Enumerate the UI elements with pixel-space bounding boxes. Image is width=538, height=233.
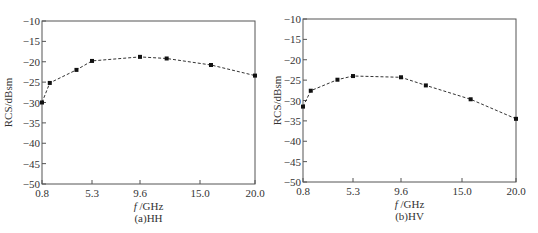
y-tick-label: −35 — [284, 115, 302, 127]
y-tick-label: −25 — [284, 74, 302, 86]
y-tick-label: −40 — [284, 135, 302, 147]
x-tick-label: 0.8 — [296, 185, 310, 197]
chart-caption: (a)HH — [134, 212, 162, 225]
x-axis-label: f /GHz — [395, 198, 425, 210]
data-point-marker — [335, 78, 339, 82]
data-point-marker — [165, 56, 169, 60]
data-point-marker — [514, 117, 518, 121]
plot-frame — [42, 21, 255, 184]
y-tick-label: −40 — [23, 137, 41, 149]
chart-caption: (b)HV — [395, 210, 424, 223]
y-axis-label: RCS/dBsm — [271, 75, 283, 125]
y-tick-label: −10 — [284, 13, 302, 25]
x-tick-label: 5.3 — [346, 185, 360, 197]
y-axis-label: RCS/dBsm — [2, 77, 14, 127]
chart-hv: −10−15−20−25−30−35−40−45−500.85.39.615.0… — [269, 0, 538, 233]
x-axis-label: f /GHz — [134, 200, 164, 212]
chart-hh-svg: −10−15−20−25−30−35−40−45−500.85.39.615.0… — [0, 0, 269, 233]
data-point-marker — [424, 83, 428, 87]
chart-hv-svg: −10−15−20−25−30−35−40−45−500.85.39.615.0… — [269, 0, 538, 233]
x-tick-label: 20.0 — [506, 185, 526, 197]
data-point-marker — [48, 81, 52, 85]
x-tick-label: 0.8 — [35, 187, 49, 199]
data-point-marker — [253, 74, 257, 78]
y-tick-label: −35 — [23, 117, 41, 129]
x-tick-label: 9.6 — [394, 185, 408, 197]
x-tick-label: 9.6 — [133, 187, 147, 199]
y-tick-label: −30 — [284, 95, 302, 107]
plot-frame — [303, 19, 516, 182]
series-line — [42, 57, 255, 103]
x-tick-label: 5.3 — [85, 187, 99, 199]
y-tick-label: −25 — [23, 76, 41, 88]
x-tick-label: 15.0 — [452, 185, 472, 197]
y-tick-label: −10 — [23, 15, 41, 27]
series-line — [303, 76, 516, 119]
y-tick-label: −45 — [23, 158, 41, 170]
data-point-marker — [351, 74, 355, 78]
y-tick-label: −45 — [284, 156, 302, 168]
y-tick-label: −15 — [23, 35, 41, 47]
data-point-marker — [209, 63, 213, 67]
chart-hh: −10−15−20−25−30−35−40−45−500.85.39.615.0… — [0, 0, 269, 233]
data-point-marker — [301, 105, 305, 109]
data-point-marker — [90, 59, 94, 63]
data-point-marker — [309, 89, 313, 93]
data-point-marker — [138, 55, 142, 59]
data-point-marker — [40, 101, 44, 105]
data-point-marker — [399, 75, 403, 79]
data-point-marker — [469, 97, 473, 101]
y-tick-label: −20 — [284, 54, 302, 66]
y-tick-label: −15 — [284, 33, 302, 45]
x-tick-label: 20.0 — [245, 187, 265, 199]
x-tick-label: 15.0 — [190, 187, 210, 199]
data-point-marker — [74, 68, 78, 72]
y-tick-label: −30 — [23, 97, 41, 109]
y-tick-label: −20 — [23, 56, 41, 68]
